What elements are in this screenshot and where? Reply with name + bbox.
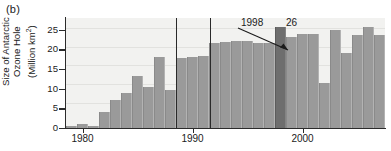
bar-2004 [341,53,352,128]
y-tick-label-15: 15 [34,63,58,74]
bar-1996 [253,43,264,128]
bar-1995 [242,41,253,128]
y-tick-label-10: 10 [34,83,58,94]
y-axis-tick-labels: 0510152025 [30,0,58,151]
annotation-leader-arrow [236,26,300,54]
bar-series [66,18,385,128]
y-tick-25 [59,30,65,31]
bar-2005 [352,35,363,129]
bar-1988 [165,90,176,128]
y-tick-label-0: 0 [34,122,58,133]
bar-1994 [231,41,242,128]
x-tick-label-1980: 1980 [63,133,103,144]
y-tick-15 [59,69,65,70]
bar-2006 [363,27,374,128]
y-tick-label-5: 5 [34,102,58,113]
bar-1990 [187,57,198,129]
x-tick-label-1990: 1990 [173,133,213,144]
x-tick-label-2000: 2000 [283,133,323,144]
y-tick-20 [59,49,65,50]
y-tick-10 [59,89,65,90]
marker-line-2 [210,18,211,128]
x-axis-line [65,128,386,129]
bar-1987 [154,57,165,129]
y-axis-title-line2-text: Ozone Hole [12,26,23,77]
plot-area [66,18,385,128]
y-axis-line [65,17,66,129]
bar-1991 [198,56,209,128]
bar-2003 [330,30,341,128]
y-tick-0 [59,128,65,129]
y-tick-label-25: 25 [34,24,58,35]
bar-2002 [319,83,330,128]
marker-line-1 [176,18,177,128]
bar-1982 [99,112,110,128]
y-axis-title-line2: Ozone Hole [12,0,23,107]
bar-1986 [143,87,154,128]
bar-2001 [308,34,319,128]
bar-1993 [220,42,231,128]
bar-1989 [176,58,187,128]
ozone-hole-chart-figure: (b) Size of Antarctic Ozone Hole (Millio… [0,0,391,151]
y-tick-label-20: 20 [34,43,58,54]
y-tick-5 [59,108,65,109]
bar-2007 [374,35,385,129]
bar-1983 [110,100,121,128]
y-axis-title-line1: Size of Antarctic [0,0,11,107]
bar-1984 [121,93,132,128]
bar-1997 [264,43,275,128]
bar-1985 [132,76,143,128]
